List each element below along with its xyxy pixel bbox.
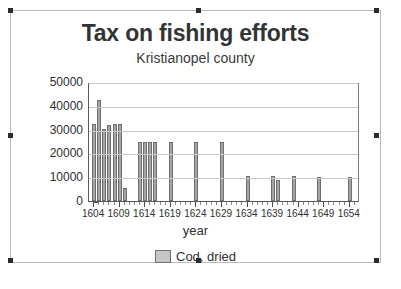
bar: [102, 129, 106, 201]
bar: [97, 100, 101, 201]
x-axis-minor-tick: [354, 202, 355, 205]
x-axis-major-tick: [272, 202, 273, 207]
bar: [220, 142, 224, 202]
x-axis-minor-tick: [114, 202, 115, 205]
gridline: [89, 131, 358, 132]
x-axis-minor-tick: [287, 202, 288, 205]
x-axis-minor-tick: [103, 202, 104, 205]
x-axis-title: year: [11, 223, 380, 238]
x-axis-major-tick: [298, 202, 299, 207]
x-axis-minor-tick: [206, 202, 207, 205]
x-axis-minor-tick: [303, 202, 304, 205]
x-axis-minor-tick: [313, 202, 314, 205]
x-axis-minor-tick: [139, 202, 140, 205]
x-axis-minor-tick: [98, 202, 99, 205]
x-axis-tick-label: 1649: [312, 208, 334, 219]
x-axis-major-tick: [247, 202, 248, 207]
x-axis-minor-tick: [277, 202, 278, 205]
y-axis-tick-label: 30000: [27, 123, 83, 137]
x-axis-minor-tick: [241, 202, 242, 205]
x-axis-minor-tick: [180, 202, 181, 205]
bar: [118, 124, 122, 201]
x-axis-minor-tick: [211, 202, 212, 205]
legend-swatch-cod-dried: [155, 250, 171, 263]
bar: [113, 124, 117, 201]
bar: [276, 180, 280, 201]
x-axis-minor-tick: [267, 202, 268, 205]
x-axis-minor-tick: [257, 202, 258, 205]
x-axis-minor-tick: [160, 202, 161, 205]
x-axis-minor-tick: [328, 202, 329, 205]
x-axis-minor-tick: [154, 202, 155, 205]
x-axis-major-tick: [144, 202, 145, 207]
x-axis-minor-tick: [282, 202, 283, 205]
x-axis-minor-tick: [165, 202, 166, 205]
x-axis-minor-tick: [124, 202, 125, 205]
plot-area: [88, 83, 359, 202]
bar: [246, 176, 250, 201]
bar: [169, 142, 173, 202]
selection-handle-top-left[interactable]: [8, 8, 13, 13]
x-axis-tick-label: 1614: [133, 208, 155, 219]
x-axis-minor-tick: [252, 202, 253, 205]
x-axis-tick-label: 1629: [210, 208, 232, 219]
selection-handle-bottom-left[interactable]: [8, 258, 13, 263]
x-axis-minor-tick: [149, 202, 150, 205]
x-axis-minor-tick: [134, 202, 135, 205]
x-axis-minor-tick: [308, 202, 309, 205]
gridline: [89, 154, 358, 155]
y-axis-tick-label: 40000: [27, 99, 83, 113]
x-axis-minor-tick: [293, 202, 294, 205]
bar: [123, 188, 127, 201]
y-axis-tick-label: 10000: [27, 170, 83, 184]
bar: [271, 176, 275, 201]
selection-handle-bottom-right[interactable]: [374, 258, 379, 263]
bar: [194, 142, 198, 202]
x-axis-minor-tick: [216, 202, 217, 205]
x-axis-tick-label: 1634: [235, 208, 257, 219]
x-axis-major-tick: [323, 202, 324, 207]
bar: [153, 142, 157, 202]
bar: [107, 125, 111, 201]
x-axis-major-tick: [195, 202, 196, 207]
bar: [348, 177, 352, 202]
x-axis-minor-tick: [200, 202, 201, 205]
bar: [148, 142, 152, 202]
legend-label: Cod, dried: [176, 249, 236, 264]
y-axis: 01000020000300004000050000: [21, 83, 83, 202]
x-axis-minor-tick: [339, 202, 340, 205]
selection-handle-middle-right[interactable]: [374, 133, 379, 138]
chart-object[interactable]: Tax on fishing efforts Kristianopel coun…: [10, 10, 381, 263]
x-axis-tick-label: 1639: [261, 208, 283, 219]
selection-handle-bottom-center[interactable]: [196, 258, 201, 263]
x-axis-major-tick: [349, 202, 350, 207]
x-axis-tick-label: 1644: [287, 208, 309, 219]
x-axis-minor-tick: [344, 202, 345, 205]
gridline: [89, 83, 358, 84]
y-axis-tick-label: 20000: [27, 146, 83, 160]
x-axis-minor-tick: [333, 202, 334, 205]
gridline: [89, 178, 358, 179]
selection-handle-middle-left[interactable]: [8, 133, 13, 138]
bars-layer: [89, 84, 358, 201]
bar: [292, 176, 296, 201]
selection-handle-top-center[interactable]: [196, 8, 201, 13]
x-axis-major-tick: [93, 202, 94, 207]
y-axis-tick-label: 0: [27, 194, 83, 208]
bar: [143, 142, 147, 202]
x-axis-minor-tick: [185, 202, 186, 205]
x-axis-minor-tick: [262, 202, 263, 205]
chart-title: Tax on fishing efforts: [11, 20, 380, 47]
y-axis-tick-label: 50000: [27, 75, 83, 89]
gridline: [89, 107, 358, 108]
x-axis-tick-label: 1604: [82, 208, 104, 219]
x-axis-minor-tick: [236, 202, 237, 205]
x-axis-major-tick: [221, 202, 222, 207]
x-axis-tick-label: 1619: [159, 208, 181, 219]
x-axis-major-tick: [119, 202, 120, 207]
x-axis-tick-label: 1609: [108, 208, 130, 219]
x-axis-minor-tick: [190, 202, 191, 205]
selection-handle-top-right[interactable]: [374, 8, 379, 13]
x-axis-major-tick: [170, 202, 171, 207]
x-axis-minor-tick: [108, 202, 109, 205]
